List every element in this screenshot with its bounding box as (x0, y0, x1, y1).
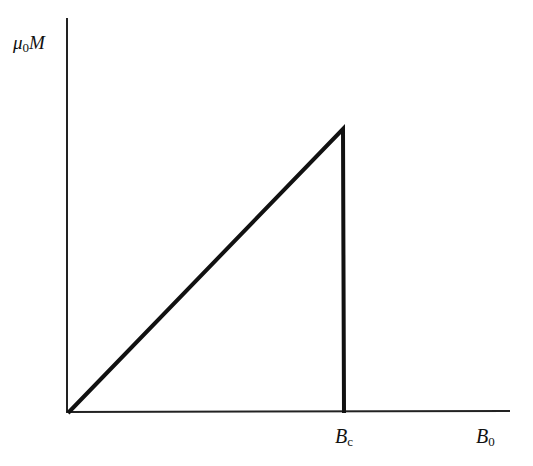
y-axis-label: μ0M (12, 32, 46, 55)
chart: μ0M Bc B0 (0, 0, 533, 466)
x-tick-label-bc: Bc (335, 425, 353, 449)
magnetization-curve (68, 129, 344, 413)
x-axis-label: B0 (476, 425, 495, 449)
x-axis (66, 411, 510, 412)
